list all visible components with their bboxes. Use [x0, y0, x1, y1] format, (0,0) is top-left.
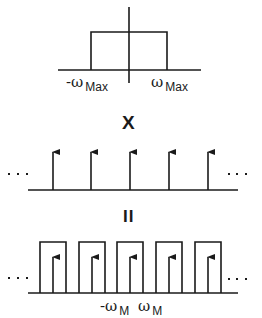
m-subscript: M — [119, 304, 129, 318]
omega-max-label: ωMax — [151, 74, 188, 90]
m-subscript: M — [152, 304, 162, 318]
ellipsis-dots — [8, 173, 247, 175]
ellipsis-dots — [8, 277, 247, 280]
impulse-train-plot — [28, 152, 238, 190]
omega-symbol: ω — [138, 297, 150, 315]
omega-m-label: ωM — [138, 298, 162, 314]
equals-operator: II — [123, 208, 134, 225]
neg-omega-m-label: -ωM — [100, 298, 129, 314]
max-subscript: Max — [85, 80, 108, 94]
omega-symbol: ω — [151, 73, 163, 91]
baseband-spectrum-plot — [58, 7, 201, 83]
multiply-operator: X — [122, 113, 135, 132]
neg-omega-symbol: -ω — [66, 73, 83, 91]
neg-omega-max-label: -ωMax — [66, 74, 108, 90]
neg-omega-symbol: -ω — [100, 297, 117, 315]
max-subscript: Max — [165, 80, 188, 94]
sampled-spectrum-plot — [28, 242, 238, 293]
sampling-diagram — [0, 0, 262, 318]
